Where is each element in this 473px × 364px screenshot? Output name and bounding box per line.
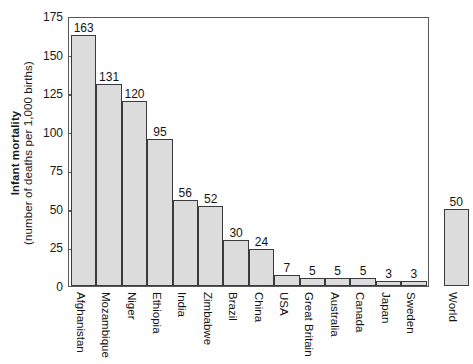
x-axis-label-mozambique: Mozambique — [98, 292, 114, 358]
bar-value-label-niger: 120 — [115, 87, 154, 101]
x-axis-label-sweden: Sweden — [403, 292, 419, 334]
x-axis-label-india: India — [174, 292, 190, 317]
x-axis-label-canada: Canada — [352, 292, 368, 332]
y-axis-tick-label: 125 — [23, 87, 63, 101]
x-axis-label-australia: Australia — [327, 292, 343, 337]
x-axis-label-great-britain: Great Britain — [301, 292, 317, 357]
bar-mozambique — [96, 84, 121, 286]
y-axis-tick-label: 0 — [23, 280, 63, 294]
y-axis-tickmark — [69, 287, 75, 288]
x-axis-label-ethiopia: Ethiopia — [149, 292, 165, 334]
bar-value-label-ethiopia: 95 — [140, 125, 179, 139]
bar-india — [173, 200, 198, 286]
x-axis-label-china: China — [251, 292, 267, 322]
plot-area: 0255075100125150175 16313112095565230247… — [68, 17, 429, 287]
bar-japan — [376, 281, 401, 286]
y-axis-tick-label: 50 — [23, 203, 63, 217]
bar-value-label-china: 24 — [242, 235, 281, 249]
y-axis-title-main: Infant mortality — [9, 111, 22, 196]
bar-australia — [325, 278, 350, 286]
x-axis-label-zimbabwe: Zimbabwe — [200, 292, 216, 345]
bar-zimbabwe — [198, 206, 223, 286]
y-axis-tick-label: 150 — [23, 49, 63, 63]
bar-value-label-world: 50 — [437, 195, 473, 209]
x-axis-label-usa: USA — [276, 292, 292, 316]
x-axis-label-brazil: Brazil — [225, 292, 241, 321]
bar-ethiopia — [147, 139, 172, 286]
bar-sweden — [401, 281, 426, 286]
y-axis-tick-label: 175 — [23, 10, 63, 24]
y-axis-tick-label: 100 — [23, 126, 63, 140]
y-axis-tick-label: 25 — [23, 241, 63, 255]
x-axis-label-afghanistan: Afghanistan — [73, 292, 89, 353]
bar-value-label-zimbabwe: 52 — [191, 192, 230, 206]
y-axis-tickmark — [69, 17, 75, 18]
bar-value-label-sweden: 3 — [394, 267, 433, 281]
bar-world — [444, 209, 469, 286]
bar-value-label-mozambique: 131 — [89, 70, 128, 84]
bar-great-britain — [300, 278, 325, 286]
x-axis-label-japan: Japan — [378, 292, 394, 323]
bar-value-label-afghanistan: 163 — [64, 21, 103, 35]
x-axis-label-niger: Niger — [124, 292, 140, 319]
y-axis-tick-label: 75 — [23, 164, 63, 178]
x-axis-label-world: World — [445, 292, 461, 322]
